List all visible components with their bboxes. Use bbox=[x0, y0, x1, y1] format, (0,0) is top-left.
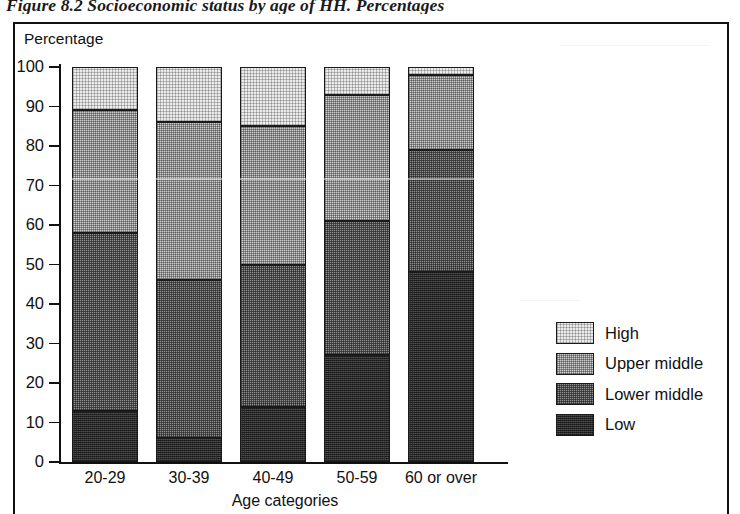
chart-legend: HighUpper middleLower middleLow bbox=[556, 320, 726, 442]
legend-label: Low bbox=[605, 415, 635, 434]
legend-item[interactable]: Low bbox=[556, 412, 726, 438]
legend-swatch-upper-middle bbox=[556, 353, 594, 375]
legend-item[interactable]: Upper middle bbox=[556, 351, 726, 377]
legend-swatch-high bbox=[556, 322, 594, 344]
legend-item[interactable]: Lower middle bbox=[556, 381, 726, 407]
legend-item[interactable]: High bbox=[556, 320, 726, 346]
x-axis-label: Age categories bbox=[60, 492, 510, 510]
y-axis-label: Percentage bbox=[24, 30, 103, 48]
legend-swatch-low bbox=[556, 414, 594, 436]
legend-label: Upper middle bbox=[605, 354, 703, 373]
figure-caption: Figure 8.2 Socioeconomic status by age o… bbox=[6, 0, 734, 14]
legend-label: Lower middle bbox=[605, 385, 703, 404]
scan-artifact bbox=[520, 300, 580, 301]
legend-label: High bbox=[605, 324, 639, 343]
scan-artifact bbox=[560, 45, 710, 46]
legend-swatch-lower-middle bbox=[556, 383, 594, 405]
